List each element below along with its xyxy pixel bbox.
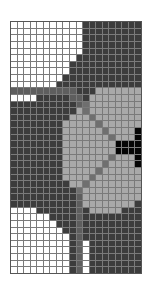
grid-cell[interactable] [90, 148, 96, 154]
grid-cell[interactable] [57, 55, 63, 61]
grid-cell[interactable] [50, 135, 56, 141]
grid-cell[interactable] [109, 35, 115, 41]
grid-cell[interactable] [103, 128, 109, 134]
grid-cell[interactable] [57, 148, 63, 154]
grid-cell[interactable] [90, 261, 96, 267]
grid-cell[interactable] [109, 228, 115, 234]
grid-cell[interactable] [116, 121, 122, 127]
grid-cell[interactable] [31, 35, 37, 41]
grid-cell[interactable] [129, 75, 135, 81]
grid-cell[interactable] [109, 181, 115, 187]
grid-cell[interactable] [129, 228, 135, 234]
grid-cell[interactable] [70, 141, 76, 147]
grid-cell[interactable] [70, 62, 76, 68]
grid-cell[interactable] [96, 49, 102, 55]
grid-cell[interactable] [11, 115, 17, 121]
grid-cell[interactable] [129, 241, 135, 247]
grid-cell[interactable] [77, 234, 83, 240]
grid-cell[interactable] [103, 121, 109, 127]
grid-cell[interactable] [31, 55, 37, 61]
grid-cell[interactable] [109, 261, 115, 267]
grid-cell[interactable] [50, 181, 56, 187]
grid-cell[interactable] [109, 208, 115, 214]
grid-cell[interactable] [116, 82, 122, 88]
grid-cell[interactable] [44, 241, 50, 247]
grid-cell[interactable] [11, 228, 17, 234]
grid-cell[interactable] [116, 254, 122, 260]
grid-cell[interactable] [122, 208, 128, 214]
grid-cell[interactable] [57, 135, 63, 141]
grid-cell[interactable] [129, 108, 135, 114]
grid-cell[interactable] [103, 228, 109, 234]
grid-cell[interactable] [109, 194, 115, 200]
grid-cell[interactable] [57, 194, 63, 200]
grid-cell[interactable] [116, 35, 122, 41]
grid-cell[interactable] [135, 201, 141, 207]
grid-cell[interactable] [96, 181, 102, 187]
grid-cell[interactable] [11, 35, 17, 41]
grid-cell[interactable] [63, 42, 69, 48]
grid-cell[interactable] [135, 228, 141, 234]
grid-cell[interactable] [24, 241, 30, 247]
grid-cell[interactable] [44, 234, 50, 240]
grid-cell[interactable] [31, 88, 37, 94]
grid-cell[interactable] [90, 49, 96, 55]
grid-cell[interactable] [37, 42, 43, 48]
grid-cell[interactable] [83, 75, 89, 81]
grid-cell[interactable] [44, 161, 50, 167]
grid-cell[interactable] [116, 115, 122, 121]
grid-cell[interactable] [37, 22, 43, 28]
grid-cell[interactable] [31, 201, 37, 207]
grid-cell[interactable] [44, 254, 50, 260]
grid-cell[interactable] [109, 247, 115, 253]
grid-cell[interactable] [77, 121, 83, 127]
grid-cell[interactable] [90, 155, 96, 161]
grid-cell[interactable] [50, 254, 56, 260]
grid-cell[interactable] [44, 261, 50, 267]
grid-cell[interactable] [24, 49, 30, 55]
grid-cell[interactable] [122, 161, 128, 167]
grid-cell[interactable] [96, 141, 102, 147]
grid-cell[interactable] [135, 115, 141, 121]
grid-cell[interactable] [116, 188, 122, 194]
grid-cell[interactable] [24, 247, 30, 253]
grid-cell[interactable] [135, 22, 141, 28]
grid-cell[interactable] [103, 68, 109, 74]
grid-cell[interactable] [96, 261, 102, 267]
grid-cell[interactable] [116, 201, 122, 207]
grid-cell[interactable] [63, 254, 69, 260]
grid-cell[interactable] [96, 155, 102, 161]
grid-cell[interactable] [24, 55, 30, 61]
grid-cell[interactable] [70, 95, 76, 101]
grid-cell[interactable] [50, 75, 56, 81]
grid-cell[interactable] [18, 108, 24, 114]
grid-cell[interactable] [122, 155, 128, 161]
grid-cell[interactable] [11, 128, 17, 134]
grid-cell[interactable] [11, 221, 17, 227]
grid-cell[interactable] [31, 194, 37, 200]
grid-cell[interactable] [70, 115, 76, 121]
grid-cell[interactable] [122, 75, 128, 81]
grid-cell[interactable] [103, 102, 109, 108]
grid-cell[interactable] [57, 181, 63, 187]
grid-cell[interactable] [31, 95, 37, 101]
grid-cell[interactable] [116, 181, 122, 187]
grid-cell[interactable] [116, 148, 122, 154]
grid-cell[interactable] [63, 108, 69, 114]
grid-cell[interactable] [129, 35, 135, 41]
grid-cell[interactable] [96, 267, 102, 273]
grid-cell[interactable] [77, 247, 83, 253]
grid-cell[interactable] [18, 88, 24, 94]
grid-cell[interactable] [116, 228, 122, 234]
grid-cell[interactable] [63, 68, 69, 74]
grid-cell[interactable] [109, 68, 115, 74]
grid-cell[interactable] [116, 194, 122, 200]
grid-cell[interactable] [11, 241, 17, 247]
grid-cell[interactable] [83, 62, 89, 68]
grid-cell[interactable] [129, 42, 135, 48]
grid-cell[interactable] [31, 261, 37, 267]
grid-cell[interactable] [63, 75, 69, 81]
grid-cell[interactable] [70, 155, 76, 161]
grid-cell[interactable] [24, 221, 30, 227]
grid-cell[interactable] [24, 128, 30, 134]
